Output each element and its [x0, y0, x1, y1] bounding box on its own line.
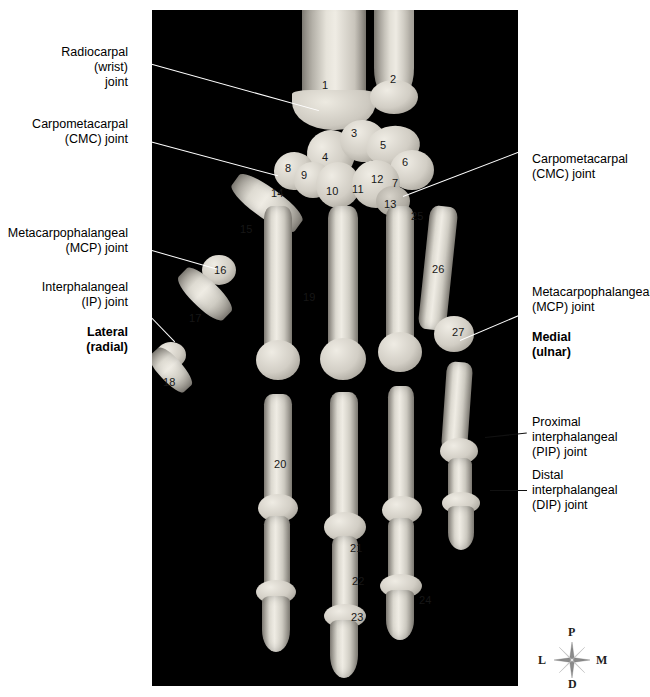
label-radiocarpal-line-2: (wrist): [0, 60, 128, 75]
bone-distal-phalanx-4: [386, 590, 414, 640]
bone-number-7: 7: [392, 178, 398, 189]
bone-number-11: 11: [352, 184, 364, 195]
label-lateral-line-1: Lateral: [0, 325, 128, 340]
label-medial-line-2: (ulnar): [532, 345, 650, 360]
bone-number-16: 16: [214, 265, 227, 276]
bone-number-23: 23: [351, 612, 364, 623]
bone-proximal-phalanx-3: [330, 392, 358, 528]
bone-ulna-head: [370, 80, 418, 114]
bone-number-18: 18: [163, 377, 176, 388]
label-mcp-left-line-1: Metacarpophalangeal: [0, 226, 128, 241]
label-cmc-right-line-2: (CMC) joint: [532, 167, 650, 182]
label-dip-right-line-3: (DIP) joint: [532, 498, 650, 513]
label-orientation-lateral: Lateral (radial): [0, 325, 128, 355]
radiograph-photo: 1234567891011121314151617181920212223242…: [152, 10, 518, 686]
label-dip-right-line-2: interphalangeal: [532, 483, 650, 498]
label-mcp-joint-left: Metacarpophalangeal (MCP) joint: [0, 226, 128, 256]
bone-mcp4-head: [378, 332, 422, 372]
label-radiocarpal-line-3: joint: [0, 75, 128, 90]
leader-line-dip-right: [490, 490, 527, 491]
bone-number-24: 24: [419, 595, 432, 606]
label-lateral-line-2: (radial): [0, 340, 128, 355]
bone-proximal-phalanx-4: [388, 386, 414, 510]
bone-mcp2-head: [256, 340, 300, 380]
bone-number-17: 17: [189, 313, 202, 324]
bone-distal-phalanx-2: [262, 596, 290, 652]
bone-number-15: 15: [240, 224, 253, 235]
label-mcp-left-line-2: (MCP) joint: [0, 241, 128, 256]
compass-star-icon: [554, 642, 590, 678]
bone-number-20: 20: [274, 459, 287, 470]
label-cmc-joint-right: Carpometacarpal (CMC) joint: [532, 152, 650, 182]
label-pip-right-line-1: Proximal: [532, 415, 650, 430]
bone-middle-phalanx-2: [264, 516, 290, 590]
label-ip-left-line-1: Interphalangeal: [0, 280, 128, 295]
bone-metacarpal-3: [328, 206, 358, 356]
bone-number-8: 8: [285, 163, 291, 174]
bone-distal-phalanx-5: [448, 506, 474, 550]
label-medial-line-1: Medial: [532, 330, 650, 345]
label-radiocarpal-line-1: Radiocarpal: [0, 45, 128, 60]
bone-mcp3-head: [320, 338, 366, 380]
label-cmc-left-line-2: (CMC) joint: [0, 132, 128, 147]
label-cmc-joint-left: Carpometacarpal (CMC) joint: [0, 117, 128, 147]
compass-direction-distal: D: [568, 677, 577, 692]
label-ip-joint-left: Interphalangeal (IP) joint: [0, 280, 128, 310]
bone-number-12: 12: [371, 174, 384, 185]
bone-number-2: 2: [390, 74, 396, 85]
bone-metacarpal-4: [386, 206, 414, 350]
bone-number-21: 21: [350, 543, 363, 554]
bone-number-9: 9: [301, 170, 307, 181]
label-radiocarpal-joint: Radiocarpal (wrist) joint: [0, 45, 128, 90]
compass-direction-proximal: P: [568, 625, 575, 640]
label-mcp-joint-right: Metacarpophalangeal (MCP) joint: [532, 285, 650, 315]
label-cmc-left-line-1: Carpometacarpal: [0, 117, 128, 132]
label-cmc-right-line-1: Carpometacarpal: [532, 152, 650, 167]
bone-number-22: 22: [352, 576, 365, 587]
label-orientation-medial: Medial (ulnar): [532, 330, 650, 360]
label-mcp-right-line-1: Metacarpophalangeal: [532, 285, 650, 300]
bone-number-10: 10: [326, 186, 339, 197]
bone-number-4: 4: [322, 152, 328, 163]
hand-skeleton-figure: 1234567891011121314151617181920212223242…: [0, 0, 650, 697]
bone-number-14: 14: [271, 188, 284, 199]
label-pip-joint-right: Proximal interphalangeal (PIP) joint: [532, 415, 650, 460]
bone-proximal-phalanx-2: [264, 394, 292, 508]
label-dip-right-line-1: Distal: [532, 468, 650, 483]
bone-number-5: 5: [380, 140, 386, 151]
compass-direction-medial: M: [596, 653, 607, 668]
bone-number-25: 25: [411, 211, 424, 222]
bone-number-26: 26: [432, 264, 445, 275]
bone-number-1: 1: [322, 80, 328, 91]
orientation-compass: P D L M: [524, 622, 620, 694]
label-ip-left-line-2: (IP) joint: [0, 295, 128, 310]
compass-direction-lateral: L: [538, 653, 546, 668]
bone-distal-phalanx-3: [330, 620, 358, 678]
bone-metacarpal-2: [264, 206, 292, 358]
bone-number-19: 19: [303, 292, 316, 303]
label-pip-right-line-3: (PIP) joint: [532, 445, 650, 460]
bone-number-27: 27: [452, 327, 465, 338]
bone-number-3: 3: [351, 128, 357, 139]
label-mcp-right-line-2: (MCP) joint: [532, 300, 650, 315]
label-dip-joint-right: Distal interphalangeal (DIP) joint: [532, 468, 650, 513]
bone-number-13: 13: [384, 199, 397, 210]
bone-number-6: 6: [402, 157, 408, 168]
label-pip-right-line-2: interphalangeal: [532, 430, 650, 445]
